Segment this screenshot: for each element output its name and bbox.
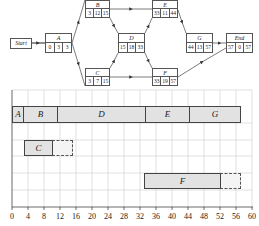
- tick-label: 52: [212, 212, 228, 221]
- tick-label: 44: [180, 212, 196, 221]
- tick-label: 28: [116, 212, 132, 221]
- start-node: Start: [10, 38, 32, 49]
- tick-label: 32: [132, 212, 148, 221]
- node-f-ef: 57: [170, 77, 177, 85]
- node-end-dur: 0: [236, 43, 245, 52]
- node-end-es: 57: [227, 43, 236, 52]
- tick-label: 16: [68, 212, 84, 221]
- node-c-dur: 7: [94, 77, 102, 85]
- node-d: D 151833: [118, 33, 145, 53]
- node-a-ef: 3: [63, 43, 71, 52]
- node-d-ef: 33: [136, 43, 144, 52]
- node-d-name: D: [119, 34, 144, 43]
- node-c-name: C: [86, 69, 109, 77]
- node-a: A 033: [45, 33, 72, 53]
- node-end-name: End: [227, 34, 252, 43]
- node-f: F 331957: [152, 68, 178, 86]
- project-schedule-diagram: Start A 033 B 31215 C 3715 D 151833 E 33…: [0, 0, 259, 226]
- tick-label: 12: [52, 212, 68, 221]
- node-g-dur: 13: [196, 43, 205, 52]
- node-b-ef: 15: [102, 9, 109, 17]
- node-b-es: 3: [86, 9, 94, 17]
- node-e-es: 33: [153, 9, 161, 17]
- node-b-dur: 12: [94, 9, 102, 17]
- node-e: E 331144: [152, 0, 178, 18]
- tick-label: 48: [196, 212, 212, 221]
- node-c: C 3715: [85, 68, 110, 86]
- node-d-dur: 18: [128, 43, 137, 52]
- node-g-es: 44: [187, 43, 196, 52]
- tick-label: 56: [228, 212, 244, 221]
- node-d-es: 15: [119, 43, 128, 52]
- tick-label: 36: [148, 212, 164, 221]
- bar-b: B: [23, 106, 58, 123]
- node-c-ef: 15: [102, 77, 109, 85]
- node-f-dur: 19: [161, 77, 169, 85]
- tick-label: 4: [20, 212, 36, 221]
- tick-label: 60: [244, 212, 259, 221]
- node-end: End 57057: [226, 33, 253, 53]
- slack-c: [52, 140, 73, 156]
- node-f-name: F: [153, 69, 177, 77]
- node-e-dur: 11: [161, 9, 169, 17]
- node-b: B 31215: [85, 0, 110, 18]
- node-g: G 441357: [186, 33, 213, 53]
- gantt-chart: A B D E G C F 0 4 8 12 16 20 24 28 32 36…: [0, 88, 259, 226]
- node-g-ef: 57: [204, 43, 212, 52]
- node-e-ef: 44: [170, 9, 177, 17]
- tick-label: 20: [84, 212, 100, 221]
- node-g-name: G: [187, 34, 212, 43]
- tick-label: 0: [4, 212, 20, 221]
- bar-f: F: [144, 173, 221, 189]
- tick-label: 8: [36, 212, 52, 221]
- node-a-name: A: [46, 34, 71, 43]
- node-e-name: E: [153, 1, 177, 9]
- node-c-es: 3: [86, 77, 94, 85]
- bar-c: C: [24, 140, 53, 156]
- node-f-es: 33: [153, 77, 161, 85]
- tick-label: 40: [164, 212, 180, 221]
- node-b-name: B: [86, 1, 109, 9]
- node-end-ef: 57: [244, 43, 252, 52]
- bar-d: D: [57, 106, 146, 123]
- slack-f: [220, 173, 241, 189]
- node-a-dur: 3: [55, 43, 64, 52]
- bar-g: G: [189, 106, 241, 123]
- tick-label: 24: [100, 212, 116, 221]
- bar-e: E: [145, 106, 190, 123]
- node-a-es: 0: [46, 43, 55, 52]
